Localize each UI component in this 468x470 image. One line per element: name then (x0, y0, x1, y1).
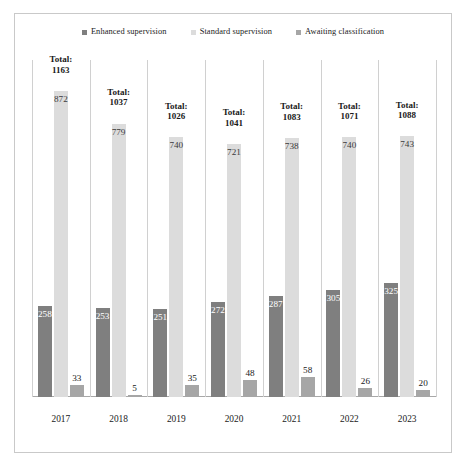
bar-value-2017-awaiting: 33 (72, 374, 81, 383)
bar-2021-enhanced[interactable]: 287 (269, 296, 283, 397)
bar-value-2022-enhanced: 305 (327, 294, 341, 303)
group-total-label: Total: (396, 100, 419, 110)
chart-figure: Enhanced supervision Standard supervisio… (14, 13, 452, 453)
bar-value-2018-awaiting: 5 (132, 384, 137, 393)
bar-value-2023-awaiting: 20 (419, 379, 428, 388)
bar-group-2023: 32574320Total:1088 (378, 60, 436, 397)
bar-2018-awaiting[interactable]: 5 (128, 395, 142, 397)
bar-value-2018-enhanced: 253 (96, 312, 110, 321)
bar-group-2017: 25887233Total:1163 (32, 60, 90, 397)
bar-2023-enhanced[interactable]: 325 (384, 283, 398, 397)
bar-value-2017-enhanced: 258 (38, 310, 52, 319)
group-total-label: Total: (338, 101, 361, 111)
group-total-value: 1163 (50, 65, 73, 75)
bar-2023-awaiting[interactable]: 20 (416, 390, 430, 397)
bar-2023-standard[interactable]: 743 (400, 136, 414, 397)
bar-2019-standard[interactable]: 740 (169, 137, 183, 397)
bar-2019-enhanced[interactable]: 251 (153, 309, 167, 397)
bar-value-2021-awaiting: 58 (303, 366, 312, 375)
group-total-2021: Total:1083 (280, 101, 303, 122)
group-total-value: 1026 (165, 111, 188, 121)
legend-swatch-icon-awaiting (296, 30, 301, 35)
group-total-value: 1071 (338, 111, 361, 121)
legend-label-enhanced: Enhanced supervision (91, 28, 167, 36)
chart-plot-area: 25887233Total:11632537795Total:103725174… (32, 60, 436, 438)
legend-item-awaiting-classification[interactable]: Awaiting classification (296, 28, 384, 36)
bar-value-2019-standard: 740 (169, 141, 183, 150)
x-axis-tick-2017: 2017 (51, 415, 70, 424)
bar-2020-awaiting[interactable]: 48 (243, 380, 257, 397)
legend-swatch-icon-enhanced (82, 30, 87, 35)
bar-group-2019: 25174035Total:1026 (147, 60, 205, 397)
legend-item-enhanced-supervision[interactable]: Enhanced supervision (82, 28, 167, 36)
bar-value-2021-enhanced: 287 (269, 300, 283, 309)
x-axis-tick-2021: 2021 (282, 415, 301, 424)
bar-2018-standard[interactable]: 779 (112, 124, 126, 397)
group-total-2023: Total:1088 (396, 100, 419, 121)
bar-value-2022-standard: 740 (343, 141, 357, 150)
group-total-value: 1037 (107, 97, 130, 107)
gridline-vertical (436, 60, 437, 397)
group-total-2017: Total:1163 (50, 54, 73, 75)
x-axis-tick-2020: 2020 (225, 415, 244, 424)
x-axis-tick-2023: 2023 (398, 415, 417, 424)
group-total-value: 1083 (280, 112, 303, 122)
group-total-label: Total: (165, 101, 188, 111)
bar-value-2021-standard: 738 (285, 142, 299, 151)
bar-group-2021: 28773858Total:1083 (263, 60, 321, 397)
bar-2017-enhanced[interactable]: 258 (38, 306, 52, 397)
bar-value-2019-enhanced: 251 (153, 313, 167, 322)
bar-2019-awaiting[interactable]: 35 (185, 385, 199, 397)
group-total-value: 1041 (223, 118, 246, 128)
chart-legend: Enhanced supervision Standard supervisio… (15, 28, 451, 36)
group-total-2019: Total:1026 (165, 101, 188, 122)
bar-value-2020-awaiting: 48 (245, 369, 254, 378)
bar-2021-awaiting[interactable]: 58 (301, 377, 315, 397)
bar-2021-standard[interactable]: 738 (285, 138, 299, 397)
legend-item-standard-supervision[interactable]: Standard supervision (191, 28, 272, 36)
bar-value-2022-awaiting: 26 (361, 377, 370, 386)
bar-value-2020-standard: 721 (227, 148, 241, 157)
group-total-label: Total: (280, 101, 303, 111)
x-axis-tick-2018: 2018 (109, 415, 128, 424)
bar-value-2020-enhanced: 272 (211, 306, 225, 315)
bar-value-2018-standard: 779 (112, 128, 126, 137)
group-total-label: Total: (107, 87, 130, 97)
bar-2020-enhanced[interactable]: 272 (211, 302, 225, 397)
bar-2022-enhanced[interactable]: 305 (326, 290, 340, 397)
group-total-2022: Total:1071 (338, 101, 361, 122)
bar-value-2023-enhanced: 325 (384, 287, 398, 296)
legend-label-awaiting: Awaiting classification (305, 28, 384, 36)
legend-swatch-icon-standard (191, 30, 196, 35)
group-total-2018: Total:1037 (107, 87, 130, 108)
legend-label-standard: Standard supervision (200, 28, 272, 36)
group-total-label: Total: (223, 107, 246, 117)
bar-2018-enhanced[interactable]: 253 (96, 308, 110, 397)
group-total-value: 1088 (396, 110, 419, 120)
bar-group-2020: 27272148Total:1041 (205, 60, 263, 397)
x-axis-tick-2019: 2019 (167, 415, 186, 424)
bar-2017-standard[interactable]: 872 (54, 91, 68, 397)
group-total-2020: Total:1041 (223, 107, 246, 128)
group-total-label: Total: (50, 54, 73, 64)
x-axis-tick-2022: 2022 (340, 415, 359, 424)
bar-2017-awaiting[interactable]: 33 (70, 385, 84, 397)
bar-value-2023-standard: 743 (400, 140, 414, 149)
bar-group-2022: 30574026Total:1071 (321, 60, 379, 397)
bar-group-2018: 2537795Total:1037 (90, 60, 148, 397)
bar-2022-awaiting[interactable]: 26 (358, 388, 372, 397)
bar-value-2019-awaiting: 35 (188, 374, 197, 383)
bar-value-2017-standard: 872 (54, 95, 68, 104)
bar-2020-standard[interactable]: 721 (227, 144, 241, 397)
bar-2022-standard[interactable]: 740 (342, 137, 356, 397)
